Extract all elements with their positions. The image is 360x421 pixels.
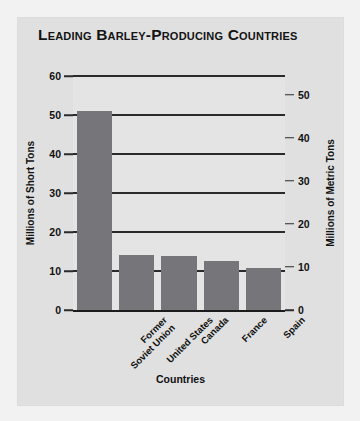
- y-axis-tick-label-right: 10: [298, 261, 310, 273]
- y-axis-tick-left: [64, 192, 73, 194]
- y-axis-tick-right: [285, 266, 294, 268]
- y-axis-tick-left: [64, 309, 73, 311]
- bar: [204, 261, 239, 310]
- y-axis-tick-label-left: 40: [49, 148, 61, 160]
- y-axis-tick-label-right: 30: [298, 175, 310, 187]
- y-axis-label-right: Millions of Metric Tons: [325, 139, 336, 247]
- y-axis-tick-right: [285, 137, 294, 139]
- y-axis-tick-right: [285, 180, 294, 182]
- plot-area: 010203040506001020304050: [73, 76, 285, 310]
- category-label-line: France: [240, 314, 270, 344]
- x-axis-category-label: Spain: [281, 315, 307, 341]
- axis-baseline: [73, 310, 285, 312]
- y-axis-tick-right: [285, 223, 294, 225]
- x-axis-category-label: France: [241, 315, 271, 345]
- bar: [161, 256, 196, 310]
- y-axis-label-left: Millions of Short Tons: [25, 141, 36, 245]
- bar: [119, 255, 154, 310]
- y-axis-tick-label-left: 20: [49, 226, 61, 238]
- y-axis-tick-label-left: 10: [49, 265, 61, 277]
- y-axis-tick-left: [64, 231, 73, 233]
- y-axis-tick-left: [64, 270, 73, 272]
- bar: [246, 268, 281, 310]
- y-axis-tick-label-left: 60: [49, 70, 61, 82]
- y-axis-tick-label-right: 50: [298, 89, 310, 101]
- bar: [77, 111, 112, 310]
- y-axis-tick-left: [64, 75, 73, 77]
- y-axis-tick-label-right: 20: [298, 218, 310, 230]
- y-axis-tick-right: [285, 94, 294, 96]
- y-axis-tick-right: [285, 309, 294, 311]
- y-axis-tick-label-left: 30: [49, 187, 61, 199]
- category-label-line: Spain: [281, 314, 307, 340]
- y-axis-tick-label-right: 40: [298, 132, 310, 144]
- gridline: [73, 75, 285, 77]
- y-axis-tick-label-left: 0: [55, 304, 61, 316]
- chart-title: Leading Barley-Producing Countries: [38, 26, 318, 43]
- y-axis-tick-left: [64, 114, 73, 116]
- y-axis-tick-label-left: 50: [49, 109, 61, 121]
- y-axis-tick-left: [64, 153, 73, 155]
- x-axis-label: Countries: [18, 373, 343, 385]
- chart-figure: Leading Barley-Producing Countries Milli…: [18, 18, 343, 405]
